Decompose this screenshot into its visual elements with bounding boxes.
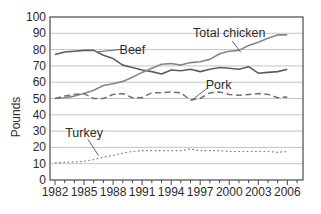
x-tick-label: 1985 bbox=[71, 185, 98, 199]
y-tick-label: 30 bbox=[33, 124, 47, 138]
pork-label: Pork bbox=[206, 78, 232, 92]
y-tick-label: 50 bbox=[33, 92, 47, 106]
y-axis-title: Pounds bbox=[9, 97, 23, 138]
chart-figure: 1982198519881991199419972000200320060102… bbox=[0, 0, 321, 214]
y-tick-label: 70 bbox=[33, 59, 47, 73]
meat-consumption-line-chart: 1982198519881991199419972000200320060102… bbox=[0, 0, 321, 214]
total-chicken-line bbox=[55, 35, 287, 99]
y-tick-label: 80 bbox=[33, 43, 47, 57]
total-chicken-label: Total chicken bbox=[193, 26, 265, 40]
y-tick-label: 90 bbox=[33, 26, 47, 40]
y-tick-label: 10 bbox=[33, 157, 47, 171]
beef-label: Beef bbox=[120, 43, 146, 57]
x-tick-label: 2000 bbox=[216, 185, 243, 199]
y-tick-label: 20 bbox=[33, 140, 47, 154]
y-tick-label: 100 bbox=[26, 10, 46, 24]
x-tick-label: 1982 bbox=[42, 185, 69, 199]
x-tick-label: 1988 bbox=[100, 185, 127, 199]
y-tick-label: 0 bbox=[39, 173, 46, 187]
x-tick-label: 1991 bbox=[129, 185, 156, 199]
x-tick-label: 1997 bbox=[187, 185, 214, 199]
y-tick-label: 40 bbox=[33, 108, 47, 122]
x-tick-label: 2006 bbox=[274, 185, 301, 199]
x-tick-label: 2003 bbox=[245, 185, 272, 199]
x-tick-label: 1994 bbox=[158, 185, 185, 199]
turkey-line bbox=[55, 149, 287, 163]
y-tick-label: 60 bbox=[33, 75, 47, 89]
turkey-label: Turkey bbox=[65, 126, 103, 140]
beef-line bbox=[55, 50, 287, 74]
